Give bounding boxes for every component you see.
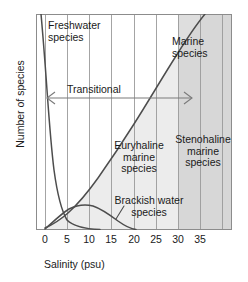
freshwater-species-label-line1: Freshwater bbox=[48, 20, 101, 32]
stenohaline-marine-species-label-line3: species bbox=[175, 157, 230, 169]
stenohaline-marine-species-label: Stenohaline marine species bbox=[175, 134, 230, 169]
salinity-species-chart: Number of species bbox=[0, 0, 248, 282]
x-tick-label-30: 30 bbox=[168, 233, 188, 245]
freshwater-species-label: Freshwater species bbox=[48, 20, 101, 43]
x-axis-title: Salinity (psu) bbox=[44, 258, 105, 270]
euryhaline-marine-species-label-line1: Euryhaline bbox=[114, 140, 164, 152]
marine-species-label-line2: species bbox=[172, 48, 208, 60]
x-tick-label-35: 35 bbox=[190, 233, 210, 245]
x-tick-label-10: 10 bbox=[79, 233, 99, 245]
x-tick-label-15: 15 bbox=[101, 233, 121, 245]
x-tick-label-25: 25 bbox=[146, 233, 166, 245]
brackish-water-species-label-line2: species bbox=[115, 207, 184, 219]
euryhaline-marine-species-label-line3: species bbox=[114, 163, 164, 175]
freshwater-species-label-line2: species bbox=[48, 32, 101, 44]
brackish-water-species-label: Brackish water species bbox=[115, 195, 184, 218]
x-tick-label-0: 0 bbox=[35, 233, 55, 245]
x-tick-label-5: 5 bbox=[57, 233, 77, 245]
stenohaline-marine-species-label-line1: Stenohaline bbox=[175, 134, 230, 146]
marine-species-label-line1: Marine bbox=[172, 36, 208, 48]
brackish-water-species-label-line1: Brackish water bbox=[115, 195, 184, 207]
transitional-label: Transitional bbox=[67, 84, 121, 96]
marine-species-label: Marine species bbox=[172, 36, 208, 59]
euryhaline-marine-species-label: Euryhaline marine species bbox=[114, 140, 164, 175]
x-tick-label-20: 20 bbox=[124, 233, 144, 245]
y-axis-title: Number of species bbox=[14, 34, 26, 174]
